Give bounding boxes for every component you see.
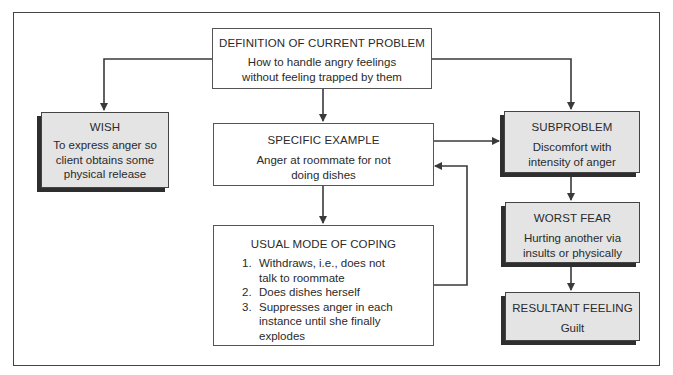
node-title: WISH — [42, 120, 168, 134]
node-title: USUAL MODE OF COPING — [214, 237, 433, 251]
coping-item: 2. Does dishes herself — [242, 285, 433, 300]
node-subproblem: SUBPROBLEM Discomfort with intensity of … — [504, 111, 640, 173]
node-resultant-feeling: RESULTANT FEELING Guilt — [505, 292, 640, 341]
node-text-line: insults or physically — [506, 246, 639, 261]
node-text-line: Guilt — [506, 321, 639, 336]
node-title: RESULTANT FEELING — [506, 301, 639, 315]
node-title: DEFINITION OF CURRENT PROBLEM — [213, 36, 431, 50]
node-text-line: How to handle angry feelings — [213, 55, 431, 70]
coping-item: 3. Suppresses anger in each instance unt… — [242, 300, 433, 344]
node-text-line: To express anger so — [42, 138, 168, 153]
coping-item: 1. Withdraws, i.e., does not talk to roo… — [242, 256, 433, 285]
node-text-line: Discomfort with — [505, 140, 639, 155]
node-title: WORST FEAR — [506, 211, 639, 225]
node-specific-example: SPECIFIC EXAMPLE Anger at roommate for n… — [213, 123, 434, 186]
node-text-line: intensity of anger — [505, 155, 639, 170]
node-worst-fear: WORST FEAR Hurting another via insults o… — [505, 202, 640, 263]
node-definition-of-current-problem: DEFINITION OF CURRENT PROBLEM How to han… — [212, 28, 432, 89]
node-text-line: physical release — [42, 167, 168, 182]
node-text-line: Hurting another via — [506, 231, 639, 246]
arrow-definition-to-subproblem — [431, 59, 571, 109]
node-title: SUBPROBLEM — [505, 120, 639, 134]
arrow-definition-to-wish — [104, 59, 212, 110]
node-title: SPECIFIC EXAMPLE — [214, 133, 433, 147]
node-text-line: client obtains some — [42, 153, 168, 168]
node-text-line: Anger at roommate for not — [214, 153, 433, 168]
arrow-usual-to-specific — [434, 166, 467, 285]
node-wish: WISH To express anger so client obtains … — [41, 112, 169, 188]
node-usual-mode-of-coping: USUAL MODE OF COPING 1. Withdraws, i.e.,… — [213, 225, 434, 346]
coping-list: 1. Withdraws, i.e., does not talk to roo… — [242, 256, 433, 343]
node-text-line: without feeling trapped by them — [213, 70, 431, 85]
node-text-line: doing dishes — [214, 168, 433, 183]
